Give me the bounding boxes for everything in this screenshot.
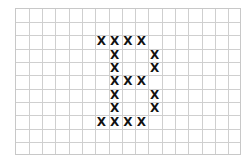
grid-row-line bbox=[16, 142, 240, 143]
x-mark: X bbox=[135, 35, 148, 48]
grid-column-line bbox=[175, 9, 176, 154]
x-mark: X bbox=[108, 115, 121, 128]
grid-row-line bbox=[16, 102, 240, 103]
grid-column-line bbox=[148, 9, 149, 154]
letter-grid: XXXXXXXXXXXXXXXXXXX bbox=[15, 8, 241, 155]
grid-row-line bbox=[16, 22, 240, 23]
grid-column-line bbox=[162, 9, 163, 154]
x-mark: X bbox=[121, 35, 134, 48]
x-mark: X bbox=[121, 75, 134, 88]
x-mark: X bbox=[148, 61, 161, 74]
x-mark: X bbox=[148, 102, 161, 115]
x-mark: X bbox=[95, 35, 108, 48]
grid-row-line bbox=[16, 89, 240, 90]
x-mark: X bbox=[121, 115, 134, 128]
grid-column-line bbox=[42, 9, 43, 154]
x-mark: X bbox=[148, 88, 161, 101]
grid-column-line bbox=[215, 9, 216, 154]
grid-column-line bbox=[29, 9, 30, 154]
grid-column-line bbox=[95, 9, 96, 154]
x-mark: X bbox=[108, 61, 121, 74]
x-mark: X bbox=[108, 88, 121, 101]
grid-column-line bbox=[228, 9, 229, 154]
grid-column-line bbox=[55, 9, 56, 154]
x-mark: X bbox=[148, 48, 161, 61]
x-mark: X bbox=[108, 75, 121, 88]
x-mark: X bbox=[108, 35, 121, 48]
x-mark: X bbox=[135, 115, 148, 128]
grid-row-line bbox=[16, 49, 240, 50]
grid-column-line bbox=[202, 9, 203, 154]
grid-column-line bbox=[69, 9, 70, 154]
x-mark: X bbox=[95, 115, 108, 128]
grid-column-line bbox=[188, 9, 189, 154]
grid-row-line bbox=[16, 62, 240, 63]
grid-row-line bbox=[16, 129, 240, 130]
x-mark: X bbox=[108, 102, 121, 115]
x-mark: X bbox=[108, 48, 121, 61]
x-mark: X bbox=[135, 75, 148, 88]
grid-column-line bbox=[82, 9, 83, 154]
